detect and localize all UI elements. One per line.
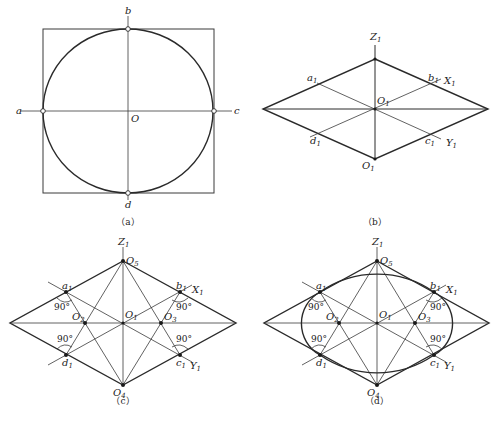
label-X1: X1 <box>445 284 458 297</box>
label-Y1: Y1 <box>446 137 457 150</box>
point-d <box>126 191 131 196</box>
label-X1: X1 <box>191 284 204 297</box>
label-a1: a1 <box>307 72 317 85</box>
angle-label-c1: 90° <box>176 334 192 344</box>
label-O1-center: O1 <box>377 95 390 108</box>
point-O1-center <box>373 107 376 110</box>
label-c1: c1 <box>430 357 440 370</box>
point-O5 <box>375 259 379 263</box>
label-d1: d1 <box>62 357 73 370</box>
label-c1: c1 <box>176 357 186 370</box>
angle-arc <box>172 345 188 349</box>
x-axis <box>48 285 192 365</box>
label-O1-bottom: O1 <box>362 160 375 173</box>
label-O3: O3 <box>418 311 431 324</box>
angle-label-d1: 90° <box>311 334 327 344</box>
angle-label-a1: 90° <box>54 302 70 312</box>
construction-line <box>320 292 377 385</box>
construction-line <box>66 261 123 355</box>
angle-label-b1: 90° <box>430 302 446 312</box>
label-O: O <box>131 113 139 124</box>
caption-c: （c） <box>111 396 134 406</box>
point-O3 <box>413 321 417 325</box>
panel-d: Z1 O5 O4 O1 O2 O3 a1 b1 X1 d1 c1 Y1 90° … <box>264 236 489 406</box>
point-b <box>126 27 131 32</box>
construction-line <box>123 292 180 385</box>
label-O1: O1 <box>379 309 392 322</box>
point-top <box>373 57 376 60</box>
angle-label-b1: 90° <box>176 302 192 312</box>
y-axis <box>317 83 441 139</box>
label-Z1: Z1 <box>369 31 381 44</box>
panel-b: Z1 X1 Y1 O1 O1 a1 b1 c1 d1 （b） <box>263 31 488 227</box>
y-axis <box>302 282 446 362</box>
caption-a: （a） <box>116 217 139 227</box>
label-O2: O2 <box>72 311 85 324</box>
construction-line <box>123 261 180 355</box>
caption-d: （d） <box>365 396 389 406</box>
angle-label-c1: 90° <box>430 334 446 344</box>
x-axis <box>302 285 446 365</box>
point-O1 <box>375 321 378 324</box>
label-O3: O3 <box>164 311 177 324</box>
y-axis <box>48 282 192 362</box>
label-d1: d1 <box>310 135 321 148</box>
label-O2: O2 <box>326 311 339 324</box>
angle-label-d1: 90° <box>57 334 73 344</box>
label-c: c <box>234 105 240 116</box>
point-O1-bottom <box>373 157 376 160</box>
panel-c: Z1 O5 O4 O1 O2 O3 a1 b1 X1 d1 c1 Y1 90° … <box>10 236 236 406</box>
label-Y1: Y1 <box>444 360 455 373</box>
label-b: b <box>125 5 131 16</box>
point-O5 <box>121 259 125 263</box>
label-a: a <box>16 105 22 116</box>
label-d: d <box>125 199 131 210</box>
point-O4 <box>121 383 125 387</box>
point-O3 <box>159 321 163 325</box>
isometric-ellipse-diagram: a c b d O （a） Z1 X1 Y1 O1 O1 a1 b1 c1 d1… <box>0 0 503 421</box>
label-O1: O1 <box>125 309 138 322</box>
construction-line <box>377 292 434 385</box>
angle-arc <box>426 345 442 349</box>
construction-line <box>66 292 123 385</box>
point-O4 <box>375 383 379 387</box>
point-a <box>41 109 46 114</box>
angle-label-a1: 90° <box>308 302 324 312</box>
label-Y1: Y1 <box>190 360 201 373</box>
point-O1 <box>121 321 124 324</box>
label-c1: c1 <box>425 135 435 148</box>
panel-a: a c b d O （a） <box>16 5 240 227</box>
label-X1: X1 <box>443 75 456 88</box>
point-c <box>212 109 217 114</box>
caption-b: （b） <box>363 217 387 227</box>
